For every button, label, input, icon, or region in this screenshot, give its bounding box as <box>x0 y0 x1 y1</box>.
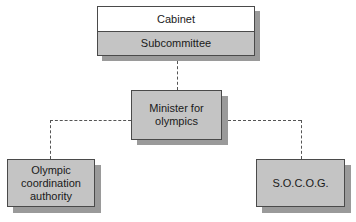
oca-label-line1: Olympic <box>31 164 71 177</box>
oca-label-line2: coordination <box>21 177 81 190</box>
minister-label-line1: Minister for <box>149 102 203 115</box>
minister-label-line2: olympics <box>155 115 198 128</box>
connector-minister-socog-h <box>228 120 301 121</box>
connector-minister-socog-v <box>301 120 302 159</box>
subcommittee-label: Subcommittee <box>141 37 211 50</box>
oca-label-line3: authority <box>30 190 72 203</box>
cabinet-box: Cabinet <box>97 6 255 32</box>
connector-cabinet-minister <box>177 61 178 90</box>
connector-minister-oca-h <box>50 120 131 121</box>
minister-box: Minister for olympics <box>131 90 222 140</box>
oca-box: Olympic coordination authority <box>7 159 95 207</box>
subcommittee-box: Subcommittee <box>97 31 255 56</box>
cabinet-label: Cabinet <box>157 13 195 26</box>
connector-minister-oca-v <box>50 120 51 159</box>
socog-label: S.O.C.O.G. <box>272 177 328 190</box>
socog-box: S.O.C.O.G. <box>256 159 345 207</box>
